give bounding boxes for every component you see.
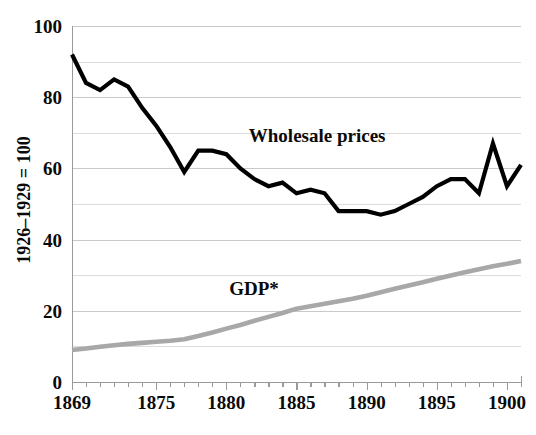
x-tick-label: 1895	[418, 392, 456, 413]
gridlines-group	[72, 27, 521, 347]
series-label-wholesale-prices: Wholesale prices	[249, 125, 386, 146]
x-tick-label: 1890	[348, 392, 386, 413]
line-chart: 020406080100 186918751880188518901895190…	[0, 0, 536, 435]
y-tick-label: 0	[53, 372, 63, 393]
y-tick-label: 40	[43, 230, 62, 251]
chart-container: 020406080100 186918751880188518901895190…	[0, 0, 536, 435]
y-tick-label: 20	[43, 301, 62, 322]
y-axis-title: 1926–1929 = 100	[14, 136, 34, 263]
series-line-gdp	[72, 261, 521, 350]
x-tick-label: 1900	[488, 392, 526, 413]
y-tick-labels: 020406080100	[34, 16, 63, 393]
x-tick-label: 1880	[207, 392, 245, 413]
series-group	[72, 54, 521, 349]
y-tick-label: 100	[34, 16, 63, 37]
y-tick-label: 80	[43, 87, 62, 108]
x-tick-labels: 1869187518801885189018951900	[53, 392, 526, 413]
x-tick-marks	[73, 382, 522, 390]
x-tick-label: 1869	[53, 392, 91, 413]
x-tick-label: 1885	[278, 392, 316, 413]
series-label-gdp: GDP*	[229, 278, 279, 299]
x-tick-label: 1875	[137, 392, 175, 413]
y-tick-label: 60	[43, 158, 62, 179]
